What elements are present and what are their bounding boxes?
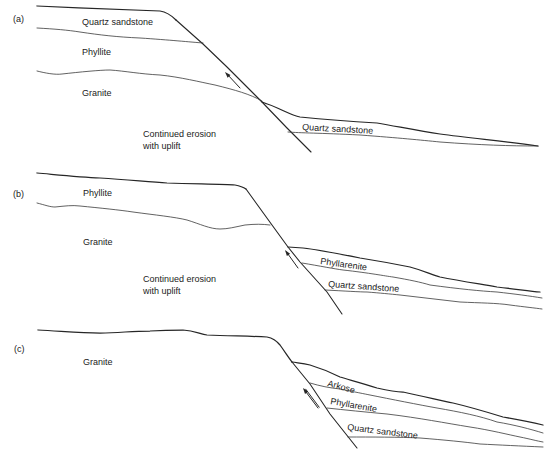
- contact-phyllite-granite: [37, 203, 270, 229]
- panel-tag-c: (c): [14, 344, 25, 354]
- panel-b: (b) Phyllite Granite Continued erosion w…: [13, 173, 542, 314]
- uplift-arrow-icon: [225, 72, 240, 88]
- basin-surface: [292, 362, 543, 425]
- label-granite: Granite: [83, 237, 113, 247]
- uplift-arrow-icon: [285, 250, 298, 268]
- panel-tag-b: (b): [13, 189, 24, 199]
- annotation-line-2: with uplift: [142, 141, 181, 151]
- label-granite: Granite: [82, 88, 112, 98]
- erosion-surface: [37, 173, 246, 189]
- basin-base-quartz-sandstone: [288, 132, 538, 146]
- erosion-surface: [38, 330, 292, 362]
- label-basin-quartz-sandstone: Quartz sandstone: [347, 422, 419, 441]
- label-phyllite: Phyllite: [83, 188, 112, 198]
- label-phyllarenite: Phyllarenite: [330, 396, 378, 414]
- panel-tag-a: (a): [13, 14, 24, 24]
- label-granite: Granite: [83, 357, 113, 367]
- contact-quartz-sandstone-phyllite: [37, 28, 203, 43]
- uplift-arrow-icon: [303, 388, 319, 408]
- label-phyllite: Phyllite: [82, 47, 111, 57]
- cross-section-figure: (a) Quartz sandstone Phyllite Granite Co…: [0, 0, 552, 458]
- label-quartz-sandstone: Quartz sandstone: [82, 17, 153, 27]
- panel-c: (c) Granite Arkose Phyllarenite Quartz s…: [14, 330, 543, 448]
- basin-base-quartz-sandstone: [348, 437, 543, 447]
- annotation-line-1: Continued erosion: [143, 129, 216, 139]
- basin-surface: [288, 247, 540, 292]
- label-basin-quartz-sandstone: Quartz sandstone: [302, 122, 373, 136]
- panel-a: (a) Quartz sandstone Phyllite Granite Co…: [13, 6, 538, 152]
- annotation-line-1: Continued erosion: [143, 274, 216, 284]
- basin-base-quartz-sandstone: [325, 290, 542, 309]
- annotation-line-2: with uplift: [142, 286, 181, 296]
